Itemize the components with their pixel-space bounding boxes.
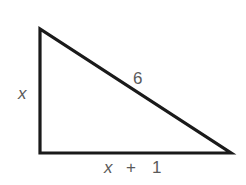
right-triangle-diagram: x 6 x + 1 xyxy=(0,0,246,185)
horizontal-side-label-const: 1 xyxy=(152,158,161,177)
hypotenuse-label: 6 xyxy=(133,69,142,88)
triangle-shape xyxy=(40,29,231,153)
horizontal-side-label-var: x xyxy=(103,158,113,177)
vertical-side-label: x xyxy=(17,84,27,103)
horizontal-side-label-op: + xyxy=(126,158,136,177)
